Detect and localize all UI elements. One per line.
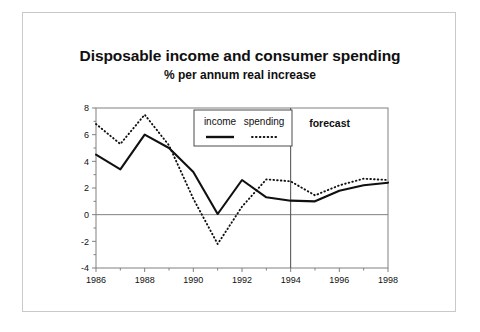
x-tick-label-1998: 1998	[378, 275, 398, 285]
x-tick-label-1990: 1990	[183, 275, 203, 285]
y-tick-label-4: 4	[84, 157, 89, 167]
x-tick-label-1992: 1992	[232, 275, 252, 285]
line-chart: 86420-2-41986198819901992199419961998inc…	[0, 0, 480, 332]
figure: Disposable income and consumer spending …	[0, 0, 480, 332]
legend-label-income: income	[204, 116, 237, 127]
y-tick-label--4: -4	[81, 263, 89, 273]
y-tick-label-0: 0	[84, 210, 89, 220]
y-tick-label-2: 2	[84, 183, 89, 193]
series-line-income	[96, 135, 388, 214]
y-tick-label-8: 8	[84, 103, 89, 113]
x-tick-label-1994: 1994	[281, 275, 301, 285]
plot-area: 86420-2-41986198819901992199419961998inc…	[81, 103, 398, 285]
x-tick-label-1986: 1986	[86, 275, 106, 285]
y-tick-label--2: -2	[81, 237, 89, 247]
y-tick-label-6: 6	[84, 130, 89, 140]
x-tick-label-1988: 1988	[135, 275, 155, 285]
forecast-label: forecast	[309, 117, 350, 129]
legend-label-spending: spending	[244, 116, 285, 127]
x-tick-label-1996: 1996	[329, 275, 349, 285]
